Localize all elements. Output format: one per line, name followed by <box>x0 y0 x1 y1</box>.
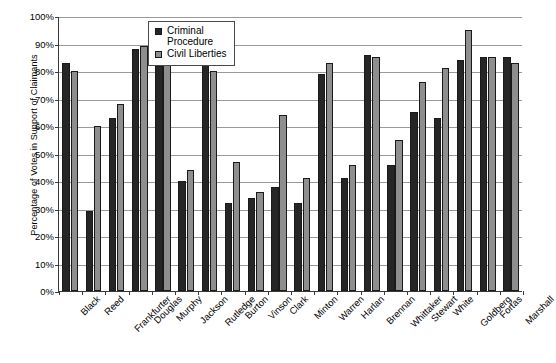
x-axis-label-marshall: Marshall <box>524 294 556 326</box>
bar-group <box>387 17 403 291</box>
bar-group <box>318 17 334 291</box>
bar-criminal-procedure <box>271 187 278 292</box>
bar-criminal-procedure <box>294 203 301 291</box>
chart-legend: Criminal Procedure Civil Liberties <box>148 21 235 66</box>
y-axis-tick-label: 60% <box>8 122 54 132</box>
bar-criminal-procedure <box>457 60 464 291</box>
legend-label-criminal-procedure: Criminal Procedure <box>167 26 213 47</box>
y-axis-tick-label: 80% <box>8 67 54 77</box>
bar-criminal-procedure <box>178 181 185 291</box>
y-axis-tick-label: 90% <box>8 40 54 50</box>
y-axis-tick-label: 10% <box>8 260 54 270</box>
bar-criminal-procedure <box>62 63 69 291</box>
bar-criminal-procedure <box>109 118 116 291</box>
bar-civil-liberties <box>303 178 310 291</box>
bar-civil-liberties <box>326 63 333 291</box>
bar-criminal-procedure <box>202 55 209 292</box>
bar-civil-liberties <box>349 165 356 292</box>
bar-civil-liberties <box>187 170 194 291</box>
legend-swatch-icon-criminal-procedure <box>155 28 162 35</box>
y-axis-tick-label: 0% <box>8 287 54 297</box>
bar-criminal-procedure <box>225 203 232 291</box>
x-axis-label-reed: Reed <box>102 294 125 317</box>
bar-criminal-procedure <box>341 178 348 291</box>
bar-group <box>457 17 473 291</box>
plot-area <box>58 17 522 292</box>
bar-criminal-procedure <box>248 198 255 292</box>
bar-criminal-procedure <box>387 165 394 292</box>
bar-criminal-procedure <box>318 74 325 291</box>
bar-criminal-procedure <box>503 57 510 291</box>
x-axis-category-labels: BlackReedFrankfurterDouglasMurphyJackson… <box>58 294 522 363</box>
y-axis-tick-label: 40% <box>8 177 54 187</box>
x-axis-label-minton: Minton <box>313 294 340 321</box>
bar-civil-liberties <box>256 192 263 291</box>
bar-group <box>410 17 426 291</box>
legend-label-civil-liberties: Civil Liberties <box>167 49 226 60</box>
legend-item-criminal-procedure: Criminal Procedure <box>155 26 226 47</box>
bar-criminal-procedure <box>364 55 371 292</box>
bar-civil-liberties <box>372 57 379 291</box>
bar-group <box>503 17 519 291</box>
x-axis-label-black: Black <box>79 294 103 318</box>
bar-group <box>341 17 357 291</box>
x-axis-label-warren: Warren <box>337 294 366 323</box>
y-axis-tick-label: 30% <box>8 205 54 215</box>
y-axis-tick-label: 100% <box>8 12 54 22</box>
bar-groups <box>59 17 522 291</box>
bar-group <box>364 17 380 291</box>
bar-civil-liberties <box>465 30 472 291</box>
y-axis-tick-label: 50% <box>8 150 54 160</box>
x-axis-tick-mark <box>523 291 524 295</box>
bar-group <box>132 17 148 291</box>
bar-civil-liberties <box>233 162 240 291</box>
bar-group <box>434 17 450 291</box>
bar-civil-liberties <box>419 82 426 291</box>
bar-civil-liberties <box>94 126 101 291</box>
bar-civil-liberties <box>117 104 124 291</box>
bar-criminal-procedure <box>410 112 417 291</box>
bar-civil-liberties <box>163 57 170 291</box>
bar-group <box>62 17 78 291</box>
bar-group <box>109 17 125 291</box>
bar-group <box>86 17 102 291</box>
bar-group <box>294 17 310 291</box>
bar-group <box>248 17 264 291</box>
bar-group <box>271 17 287 291</box>
bar-criminal-procedure <box>480 57 487 291</box>
bar-civil-liberties <box>71 71 78 291</box>
bar-civil-liberties <box>488 57 495 291</box>
bar-civil-liberties <box>279 115 286 291</box>
legend-swatch-icon-civil-liberties <box>155 51 162 58</box>
bar-criminal-procedure <box>434 118 441 291</box>
bar-civil-liberties <box>442 68 449 291</box>
bar-civil-liberties <box>511 63 518 291</box>
bar-criminal-procedure <box>86 211 93 291</box>
bar-group <box>480 17 496 291</box>
legend-item-civil-liberties: Civil Liberties <box>155 49 226 60</box>
bar-civil-liberties <box>395 140 402 291</box>
bar-civil-liberties <box>140 46 147 291</box>
bar-criminal-procedure <box>132 49 139 291</box>
y-axis-tick-label: 20% <box>8 232 54 242</box>
y-axis-tick-label: 70% <box>8 95 54 105</box>
bar-criminal-procedure <box>155 66 162 292</box>
bar-civil-liberties <box>210 71 217 291</box>
